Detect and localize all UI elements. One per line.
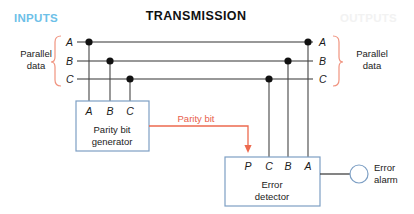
detector-pin-a: A <box>303 160 311 172</box>
detector-pin-c: C <box>265 160 273 172</box>
detector-title-line2: detector <box>255 191 289 202</box>
left-group-label-line2: data <box>27 60 46 71</box>
detector-pin-b: B <box>284 160 291 172</box>
generator-pin-a: A <box>84 105 92 117</box>
junction-dot-gen-b <box>106 57 113 64</box>
inputs-label: INPUTS <box>14 12 58 24</box>
diagram-background <box>0 0 414 214</box>
bus-left-letter-c: C <box>66 73 74 85</box>
left-group-label-line1: Parallel <box>20 48 52 59</box>
generator-pin-c: C <box>126 105 134 117</box>
junction-dot-gen-c <box>126 75 133 82</box>
generator-pin-b: B <box>106 105 113 117</box>
bus-right-letter-a: A <box>318 36 326 48</box>
bus-left-letter-b: B <box>66 55 73 67</box>
junction-dot-det-b <box>284 57 291 64</box>
junction-dot-det-a <box>304 38 311 45</box>
detector-title-line1: Error <box>261 179 282 190</box>
bus-right-letter-c: C <box>319 73 327 85</box>
diagram-title: TRANSMISSION <box>146 9 247 23</box>
bus-right-letter-b: B <box>319 55 326 67</box>
outputs-label: OUTPUTS <box>340 12 397 24</box>
generator-title-line1: Parity bit <box>94 124 131 135</box>
alarm-label-line2: alarm <box>374 174 398 185</box>
detector-pin-p: P <box>244 160 251 172</box>
alarm-label-line1: Error <box>374 162 395 173</box>
parity-bit-signal-label: Parity bit <box>178 113 215 124</box>
error-alarm-indicator <box>350 165 368 183</box>
junction-dot-det-c <box>265 75 272 82</box>
right-group-label-line1: Parallel <box>356 48 388 59</box>
parity-transmission-diagram: INPUTS TRANSMISSION OUTPUTS Parallel dat… <box>0 0 414 214</box>
generator-title-line2: generator <box>92 136 133 147</box>
bus-left-letter-a: A <box>65 36 73 48</box>
junction-dot-gen-a <box>85 38 92 45</box>
right-group-label-line2: data <box>363 60 382 71</box>
